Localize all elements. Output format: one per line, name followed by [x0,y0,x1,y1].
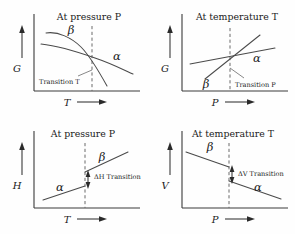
transition-annotation: Transition T [39,78,80,86]
panel-g-vs-p: G At temperature T β α Transition P P [148,0,295,117]
curve-alpha [190,48,275,64]
curve-label-beta: β [206,140,214,154]
panel-title: At temperature T [195,11,279,22]
x-axis-label: P [211,214,219,225]
panel-title: At pressure P [56,11,121,22]
x-axis-arrow-head [247,99,255,105]
y-axis-label: V [161,180,170,191]
y-axis-arrow-head [167,142,173,150]
curve-label-alpha: α [253,51,261,65]
y-axis-arrow-head [167,25,173,33]
curve-label-alpha: α [254,180,262,194]
panel-g-vs-t: G At pressure P β α Transition T T [0,0,147,117]
curve-label-alpha: α [113,49,121,63]
curve-beta [85,152,128,172]
x-axis-arrow-head [99,216,107,222]
curve-label-alpha: α [56,180,64,194]
panel-v-vs-p: V At temperature T β α ΔV Transition P [148,117,295,234]
x-axis-label: P [211,97,219,108]
phase-transition-figure: G At pressure P β α Transition T T [0,0,295,234]
x-axis-label: T [64,214,72,225]
panel-title: At pressure P [50,128,115,139]
delta-label: ΔH Transition [94,173,142,181]
y-axis-arrow-head [19,142,25,150]
y-axis-label: G [161,63,169,74]
x-axis-label: T [64,97,72,108]
curve-label-beta: β [98,150,106,164]
curve-label-beta: β [67,23,75,37]
transition-annotation: Transition P [235,81,276,89]
delta-label: ΔV Transition [238,170,285,178]
curve-label-beta: β [202,77,210,91]
y-axis-label: H [12,180,22,191]
curve-beta [186,152,229,167]
y-axis-label: G [13,63,21,74]
transition-leader-line [230,68,244,78]
transition-leader-line [78,70,92,76]
y-axis-arrow-head [19,25,25,33]
x-axis-arrow-head [99,99,107,105]
panel-h-vs-t: H At pressure P β α ΔH Transition T [0,117,147,234]
curve-alpha [43,186,85,200]
x-axis-arrow-head [247,216,255,222]
delta-arrow-head-down [86,182,91,189]
curve-beta [205,35,260,79]
panel-title: At temperature T [191,128,275,139]
delta-arrow-head-up [230,165,235,172]
